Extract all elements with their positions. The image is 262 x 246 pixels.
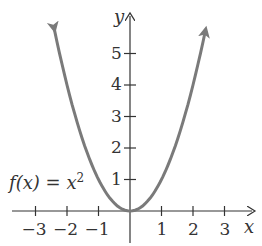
x-tick-label: −1 <box>85 221 110 238</box>
function-label: f(x) = x2 <box>9 172 84 192</box>
x-axis-label: x <box>244 218 254 236</box>
x-tick-label: −2 <box>53 221 78 238</box>
function-label-text: f(x) = x <box>9 172 77 193</box>
x-tick-label: 3 <box>220 221 231 238</box>
x-tick-label: 1 <box>157 221 168 238</box>
function-label-exponent: 2 <box>77 171 85 185</box>
y-tick-label: 3 <box>111 108 122 125</box>
x-tick-label: −3 <box>22 221 47 238</box>
x-tick-label: 2 <box>188 221 199 238</box>
chart-canvas <box>0 0 262 246</box>
y-axis-label: y <box>114 8 124 26</box>
y-tick-label: 4 <box>111 76 122 93</box>
y-tick-label: 5 <box>111 45 122 62</box>
y-tick-label: 1 <box>111 171 122 188</box>
y-tick-label: 2 <box>111 139 122 156</box>
